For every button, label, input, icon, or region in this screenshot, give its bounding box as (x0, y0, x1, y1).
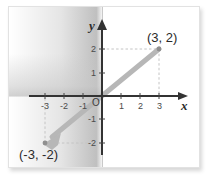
point-dot-3-2 (157, 47, 162, 52)
y-tick-label-2: 2 (91, 45, 96, 54)
point-label-neg3-neg2: (-3, -2) (19, 148, 58, 161)
y-tick-label--2: -2 (88, 139, 96, 148)
point-dot-neg3-neg2 (43, 141, 48, 146)
x-tick-label-1: 1 (119, 102, 124, 111)
paper-sheet: -3 -2 -1 1 2 3 2 1 -1 -2 O y x (3, 2) (-… (8, 6, 200, 168)
y-axis-arrowhead (97, 19, 107, 30)
x-tick-label-2: 2 (138, 102, 143, 111)
y-axis-label: y (89, 19, 95, 32)
vector-shaft (52, 49, 159, 137)
y-tick-label-1: 1 (91, 69, 96, 78)
y-tick-label--1: -1 (88, 115, 96, 124)
x-axis-label: x (181, 99, 188, 112)
screenshot-root: -3 -2 -1 1 2 3 2 1 -1 -2 O y x (3, 2) (-… (0, 0, 208, 180)
x-tick-label--1: -1 (79, 102, 87, 111)
point-label-3-2: (3, 2) (147, 31, 177, 44)
x-tick-label--3: -3 (41, 102, 49, 111)
origin-label: O (92, 98, 100, 108)
x-tick-label--2: -2 (60, 102, 68, 111)
x-tick-label-3: 3 (157, 102, 162, 111)
